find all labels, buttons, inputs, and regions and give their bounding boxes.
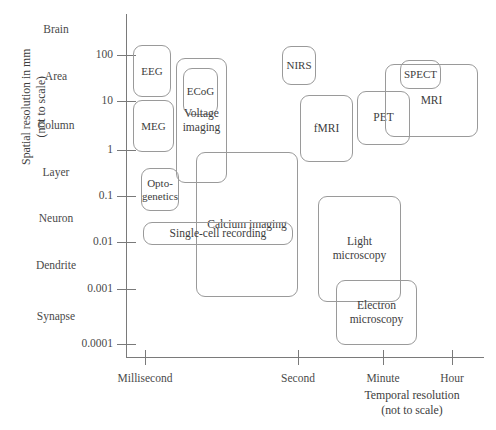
y-scale-word: Brain xyxy=(0,24,112,36)
y-scale-word: Dendrite xyxy=(0,260,112,272)
x-tick xyxy=(145,350,146,365)
method-box-label: MRI xyxy=(421,94,443,108)
method-box-label: NIRS xyxy=(286,59,311,72)
x-axis-line xyxy=(126,357,484,358)
y-tick xyxy=(117,242,136,243)
method-box-eeg[interactable]: EEG xyxy=(133,45,171,97)
y-scale-word: Neuron xyxy=(0,213,112,225)
x-axis-title: Temporal resolution (not to scale) xyxy=(332,388,492,417)
y-scale-word: Layer xyxy=(0,167,112,179)
method-box-label: EEG xyxy=(141,65,162,78)
x-tick xyxy=(383,350,384,365)
method-box-label: Electron microscopy xyxy=(350,299,404,326)
brain-imaging-methods-chart: 1001010.10.010.0010.0001 BrainAreaColumn… xyxy=(0,0,496,430)
x-axis-title-line1: Temporal resolution xyxy=(364,388,459,402)
y-tick xyxy=(117,150,136,151)
method-box-label: SPECT xyxy=(404,68,437,81)
y-scale-word: Synapse xyxy=(0,311,112,323)
method-box-label: Opto- genetics xyxy=(142,177,178,203)
y-axis-title: Spatial resolution in mm (not to scale) xyxy=(19,27,48,187)
y-axis-title-line2: (not to scale) xyxy=(34,76,48,138)
y-tick-label: 0.1 xyxy=(8,190,113,202)
y-tick-label: 0.0001 xyxy=(8,338,113,350)
x-tick xyxy=(298,350,299,365)
y-axis-title-line1: Spatial resolution in mm xyxy=(19,49,33,165)
x-axis-title-line2: (not to scale) xyxy=(381,403,443,417)
y-tick xyxy=(117,344,136,345)
y-axis-line xyxy=(126,14,127,358)
method-box-electron-microscopy[interactable]: Electron microscopy xyxy=(336,280,417,345)
y-tick xyxy=(117,101,136,102)
y-tick xyxy=(117,196,136,197)
method-box-label: Voltage imaging xyxy=(183,107,221,134)
method-box-label: MEG xyxy=(141,120,165,133)
method-box-fmri[interactable]: fMRI xyxy=(300,95,353,162)
method-box-meg[interactable]: MEG xyxy=(133,100,174,152)
method-box-optogenetics[interactable]: Opto- genetics xyxy=(141,168,179,211)
x-tick-label: Hour xyxy=(392,373,496,385)
y-tick-label: 0.01 xyxy=(8,236,113,248)
method-box-spect[interactable]: SPECT xyxy=(400,60,441,89)
method-box-single-cell-recording[interactable]: Single-cell recording xyxy=(143,222,293,245)
y-tick xyxy=(117,289,136,290)
y-scale-word: Column xyxy=(0,120,112,132)
method-box-label: Light microscopy xyxy=(333,235,387,262)
y-tick-label: 0.001 xyxy=(8,283,113,295)
method-box-label: fMRI xyxy=(314,122,340,136)
x-tick xyxy=(452,350,453,365)
x-tick-label: Millisecond xyxy=(85,373,205,385)
method-box-label: Single-cell recording xyxy=(170,227,267,241)
y-scale-word: Area xyxy=(0,71,112,83)
method-box-nirs[interactable]: NIRS xyxy=(282,46,316,85)
